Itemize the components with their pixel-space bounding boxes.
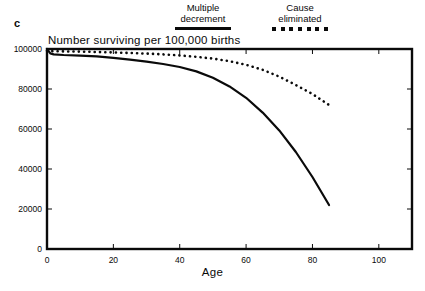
x-tick-label: 20 <box>109 256 118 265</box>
series-line <box>47 51 329 105</box>
y-tick-label: 60000 <box>0 125 42 134</box>
x-tick-label: 40 <box>175 256 184 265</box>
figure-panel-c: c Multiple decrement Cause eliminated Nu… <box>0 0 425 291</box>
x-tick-label: 60 <box>241 256 250 265</box>
y-tick-label: 80000 <box>0 85 42 94</box>
y-tick-label: 20000 <box>0 205 42 214</box>
plot-frame <box>47 49 412 249</box>
y-tick-label: 0 <box>0 245 42 254</box>
axis-ticks <box>47 49 412 249</box>
series-line <box>47 49 329 205</box>
plot-area <box>0 0 425 291</box>
x-axis-title: Age <box>0 266 425 278</box>
y-tick-label: 100000 <box>0 45 42 54</box>
x-tick-label: 80 <box>308 256 317 265</box>
x-tick-label: 100 <box>372 256 386 265</box>
y-tick-label: 40000 <box>0 165 42 174</box>
data-series <box>47 49 329 205</box>
x-tick-label: 0 <box>45 256 50 265</box>
